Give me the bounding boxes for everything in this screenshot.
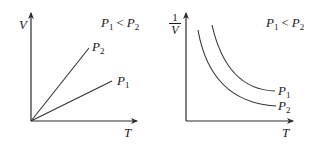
left-line-label-p2: P2 — [92, 40, 104, 53]
left-x-axis-label: T — [124, 126, 131, 139]
right-y-axis-label-denominator: V — [169, 24, 181, 37]
left-line-label-p1: P1 — [117, 74, 129, 87]
right-curve-label-p1: P1 — [278, 84, 290, 97]
right-y-axis-label: 1 V — [169, 12, 181, 37]
right-curve-p2 — [198, 30, 276, 106]
left-line-p2 — [31, 48, 89, 121]
right-curve-label-p2: P2 — [278, 99, 290, 112]
left-y-axis-label: V — [19, 18, 27, 31]
right-curve-p1 — [212, 25, 275, 91]
right-condition-label: P1<P2 — [266, 16, 304, 29]
right-x-axis-label: T — [282, 126, 289, 139]
left-line-p1 — [31, 81, 112, 121]
left-condition-label: P1<P2 — [101, 16, 139, 29]
